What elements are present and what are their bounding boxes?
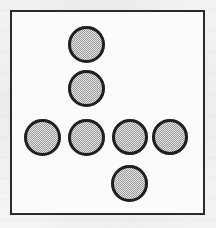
- circle-3-outline: [24, 119, 61, 156]
- circle-7: [111, 165, 148, 202]
- circle-4: [68, 119, 105, 156]
- circle-7-outline: [111, 165, 148, 202]
- circle-1-outline: [68, 26, 105, 63]
- circle-4-outline: [68, 119, 105, 156]
- circle-6: [152, 119, 188, 155]
- circle-2: [68, 70, 105, 107]
- circle-5-outline: [112, 119, 148, 155]
- figure-canvas: [0, 0, 216, 228]
- circle-5: [112, 119, 148, 155]
- figure-border: [10, 10, 205, 215]
- circle-2-outline: [68, 70, 105, 107]
- circle-3: [24, 119, 61, 156]
- circle-1: [68, 26, 105, 63]
- circle-6-outline: [152, 119, 188, 155]
